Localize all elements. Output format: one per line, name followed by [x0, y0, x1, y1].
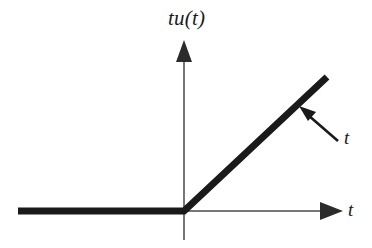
- curve-annotation-label: t: [344, 128, 349, 147]
- ramp-curve: [18, 77, 327, 211]
- plot-canvas: [0, 0, 372, 248]
- y-axis-arrowhead: [176, 40, 192, 62]
- y-axis-label: tu(t): [168, 8, 205, 29]
- annotation-arrow-shaft: [308, 115, 338, 141]
- x-axis-label: t: [348, 200, 353, 219]
- ramp-function-figure: tu(t) t t: [0, 0, 372, 248]
- x-axis-arrowhead: [320, 202, 343, 220]
